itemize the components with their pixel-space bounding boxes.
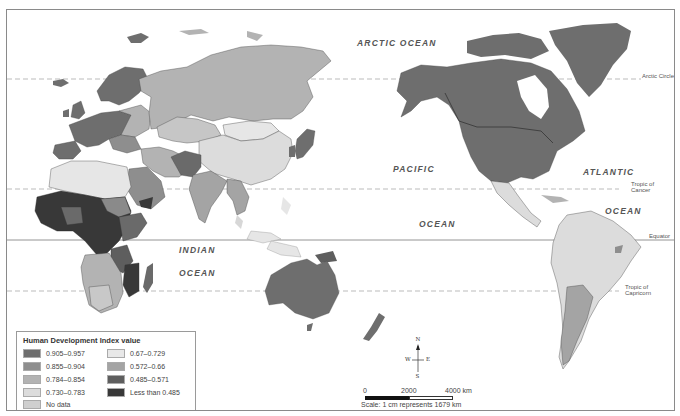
scale-caption: Scale: 1 cm represents 1679 km (361, 401, 461, 408)
iberia (53, 141, 81, 159)
legend-item: 0.784–0.854 (23, 374, 85, 384)
legend-swatch (23, 388, 41, 397)
scale-tick-4000: 4000 km (445, 387, 472, 394)
legend-item: 0.67–0.729 (107, 348, 165, 358)
legend-swatch (23, 349, 41, 358)
legend-swatch (107, 375, 125, 384)
legend-label: 0.730–0.783 (46, 389, 85, 396)
legend-item: 0.572–0.66 (107, 361, 165, 371)
equator-label: Equator (649, 233, 670, 239)
legend-label: Less than 0.485 (130, 389, 180, 396)
legend-title: Human Development Index value (23, 336, 141, 345)
pacific-ocean-label-1: PACIFIC (393, 164, 435, 174)
legend-item: 0.730–0.783 (23, 387, 85, 397)
arctic-ocean-label: ARCTIC OCEAN (357, 38, 437, 48)
compass-north: N (416, 336, 421, 342)
india (189, 171, 227, 223)
legend: Human Development Index value 0.905–0.95… (16, 331, 196, 411)
central-america (491, 181, 541, 227)
scale-bar-white (409, 396, 453, 400)
legend-swatch (23, 362, 41, 371)
compass-rose-icon: N S E W (403, 336, 433, 384)
legend-item: 0.905–0.957 (23, 348, 85, 358)
scale-tick-2000: 2000 (401, 387, 417, 394)
legend-label: 0.67–0.729 (130, 350, 165, 357)
tropic-capricorn-label: Tropic of Capricorn (625, 284, 674, 296)
scale-bar: 0 2000 4000 km Scale: 1 cm represents 16… (361, 387, 521, 411)
madagascar (143, 263, 153, 293)
atlantic-ocean-label-2: OCEAN (605, 206, 642, 216)
australia (265, 259, 339, 319)
map-frame: ARCTIC OCEAN PACIFIC OCEAN ATLANTIC OCEA… (6, 9, 675, 411)
indian-ocean-label-2: OCEAN (179, 268, 216, 278)
legend-label: 0.905–0.957 (46, 350, 85, 357)
tropic-cancer-label: Tropic of Cancer (631, 181, 674, 193)
legend-swatch (107, 349, 125, 358)
scale-bar-black (365, 396, 409, 400)
new-zealand (363, 313, 385, 341)
indian-ocean-label-1: INDIAN (179, 245, 215, 255)
russia (139, 45, 331, 129)
legend-label: 0.855–0.904 (46, 363, 85, 370)
legend-item: No data (23, 399, 71, 409)
legend-swatch (23, 400, 41, 409)
pacific-ocean-label-2: OCEAN (419, 219, 456, 229)
atlantic-ocean-label-1: ATLANTIC (583, 167, 634, 177)
legend-label: 0.485–0.571 (130, 376, 169, 383)
legend-label: 0.784–0.854 (46, 376, 85, 383)
legend-swatch (107, 388, 125, 397)
compass-east: E (426, 356, 430, 362)
compass-west: W (405, 356, 411, 362)
legend-label: 0.572–0.66 (130, 363, 165, 370)
compass-south: S (416, 373, 420, 379)
scale-tick-0: 0 (363, 387, 367, 394)
legend-item: 0.485–0.571 (107, 374, 169, 384)
legend-item: 0.855–0.904 (23, 361, 85, 371)
legend-label: No data (46, 401, 71, 408)
legend-item: Less than 0.485 (107, 387, 180, 397)
legend-swatch (23, 375, 41, 384)
legend-swatch (107, 362, 125, 371)
iceland (53, 79, 69, 87)
arctic-circle-label: Arctic Circle (642, 73, 674, 79)
